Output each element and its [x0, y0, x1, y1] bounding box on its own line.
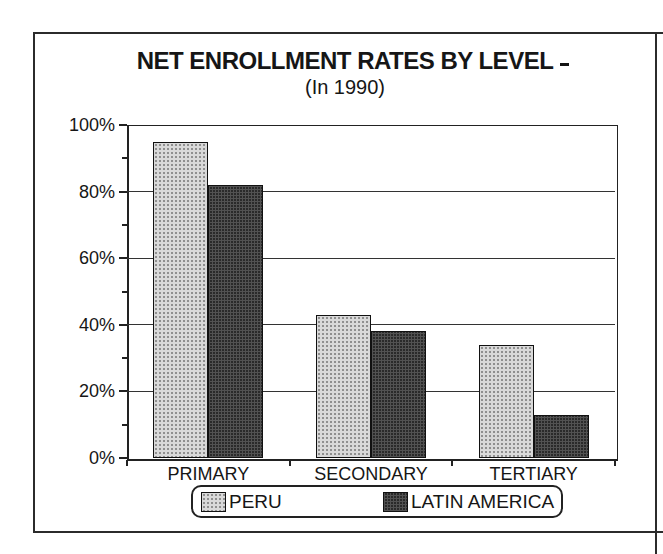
scanned-chart-page: NET ENROLLMENT RATES BY LEVEL (In 1990) … [0, 0, 663, 554]
y-axis-major-tick-40 [119, 324, 127, 326]
bar-latin-america-primary [208, 185, 263, 458]
y-axis-minor-tick-90 [122, 157, 127, 159]
legend: PERULATIN AMERICA [191, 485, 563, 518]
chart-title: NET ENROLLMENT RATES BY LEVEL [33, 47, 657, 75]
frame-bleed-right-edge [655, 533, 657, 554]
y-axis-label-0: 0% [53, 448, 115, 469]
frame-bleed-top-right [657, 32, 663, 34]
legend-swatch-latin-america [383, 492, 408, 512]
bar-latin-america-secondary [371, 331, 426, 458]
legend-label-latin-america: LATIN AMERICA [411, 491, 554, 513]
bar-peru-tertiary [479, 345, 534, 458]
frame-bleed-bottom-right [657, 531, 663, 533]
y-axis-minor-tick-70 [122, 224, 127, 226]
bar-peru-secondary [316, 315, 371, 458]
legend-swatch-peru [201, 492, 226, 512]
bar-peru-primary [153, 142, 208, 458]
y-axis-label-100: 100% [53, 115, 115, 136]
y-axis-minor-tick-10 [122, 424, 127, 426]
y-axis-label-60: 60% [53, 248, 115, 269]
y-axis-minor-tick-50 [122, 291, 127, 293]
x-axis-label-primary: PRIMARY [123, 464, 293, 485]
x-axis-label-tertiary: TERTIARY [449, 464, 619, 485]
scan-artifact-mark [560, 63, 569, 66]
y-axis-major-tick-0 [119, 457, 127, 459]
x-axis-label-secondary: SECONDARY [286, 464, 456, 485]
y-axis-major-tick-100 [119, 124, 127, 126]
bar-latin-america-tertiary [534, 415, 589, 458]
y-axis-major-tick-60 [119, 257, 127, 259]
y-axis-major-tick-80 [119, 191, 127, 193]
chart-subtitle: (In 1990) [33, 76, 657, 99]
y-axis-label-20: 20% [53, 381, 115, 402]
y-axis-minor-tick-30 [122, 357, 127, 359]
y-axis-major-tick-20 [119, 390, 127, 392]
legend-label-peru: PERU [229, 491, 282, 513]
y-axis-label-80: 80% [53, 182, 115, 203]
y-axis-label-40: 40% [53, 315, 115, 336]
